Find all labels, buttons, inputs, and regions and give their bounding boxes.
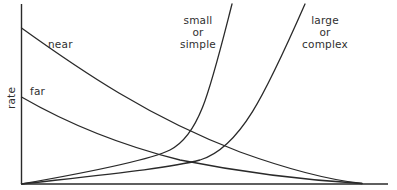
label-near: near (48, 38, 73, 50)
label-small-or-simple: small or simple (180, 14, 216, 50)
y-axis-label: rate (5, 87, 17, 109)
curve-near (22, 28, 363, 184)
label-large-line-3: complex (302, 38, 348, 50)
label-far: far (30, 85, 45, 97)
label-large-or-complex: large or complex (302, 14, 348, 50)
label-large-line-2: or (302, 26, 348, 38)
curve-far (22, 97, 363, 184)
label-small-line-3: simple (180, 38, 216, 50)
curve-large-or-complex (22, 4, 306, 184)
label-large-line-1: large (302, 14, 348, 26)
label-small-line-1: small (180, 14, 216, 26)
label-small-line-2: or (180, 26, 216, 38)
